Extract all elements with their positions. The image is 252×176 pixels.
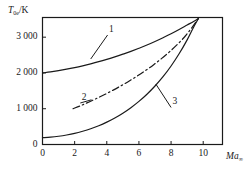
plot-frame-box: [43, 18, 223, 145]
x-tick-label: 4: [97, 149, 117, 159]
x-tick-label: 6: [129, 149, 149, 159]
plot-frame: [43, 18, 223, 145]
x-axis-title: Ma∞: [226, 152, 243, 162]
series-line-3: [43, 19, 199, 138]
x-tick-label: 2: [65, 149, 85, 159]
chart-series-lines: [43, 19, 199, 138]
x-tick-label: 8: [161, 149, 181, 159]
y-tick-label: 0: [0, 140, 38, 150]
annotation-leader-lines: [80, 35, 171, 107]
curve-label-1: 1: [109, 25, 114, 35]
y-tick-label: 1 000: [0, 104, 38, 114]
x-tick-label: 0: [33, 149, 53, 159]
leader-line-1: [91, 35, 108, 59]
x-tick-label: 10: [193, 149, 213, 159]
y-tick-label: 3 000: [0, 32, 38, 42]
y-axis-title: T0e/K: [8, 6, 28, 16]
curve-label-2: 2: [82, 93, 87, 103]
leader-line-3: [156, 84, 171, 107]
curve-label-3: 3: [173, 97, 178, 107]
y-tick-label: 2 000: [0, 68, 38, 78]
chart-figure: 0246810 01 0002 0003 000 123 T0e/K Ma∞: [0, 0, 252, 176]
series-line-1: [43, 19, 199, 73]
